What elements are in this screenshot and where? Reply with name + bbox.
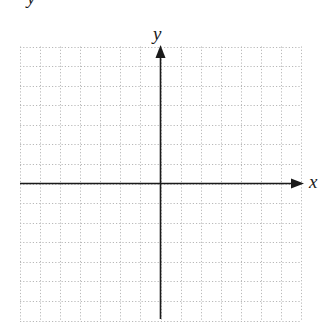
- x-axis-arrow-icon: [291, 179, 304, 189]
- x-axis-label: x: [308, 171, 318, 192]
- x-axis: x: [20, 171, 318, 192]
- y-axis-label: y: [151, 23, 162, 44]
- stray-y-label: y: [25, 0, 36, 8]
- coordinate-plane: y x y: [0, 0, 336, 331]
- y-axis-arrow-icon: [156, 45, 166, 58]
- y-axis: y: [151, 23, 166, 319]
